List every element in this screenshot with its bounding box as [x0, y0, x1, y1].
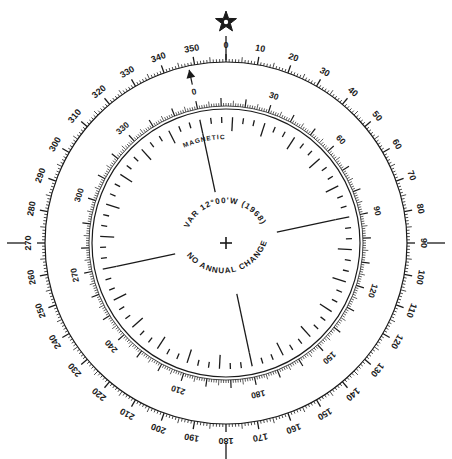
true-ring-tick — [400, 192, 403, 193]
magnetic-inner-tick — [336, 217, 350, 220]
true-ring-tick — [89, 364, 91, 366]
magnetic-ring-tick — [116, 327, 118, 329]
magnetic-ring-tick — [202, 378, 203, 381]
magnetic-inner-tick — [320, 304, 332, 312]
true-ring-tick — [68, 148, 71, 150]
magnetic-ring-tick — [89, 214, 92, 215]
magnetic-ring-tick — [360, 216, 363, 217]
true-ring-tick — [356, 115, 358, 117]
magnetic-ring-tick — [176, 371, 177, 374]
magnetic-ring-tick — [183, 110, 184, 113]
magnetic-ring-tick — [99, 184, 102, 185]
magnetic-ring-tick — [202, 105, 203, 108]
true-ring-tick — [73, 347, 78, 350]
magnetic-ring-tick — [95, 193, 98, 194]
true-ring-tick — [73, 140, 75, 142]
magnetic-ring-tick — [316, 137, 318, 139]
magnetic-ring-tick — [114, 159, 116, 161]
true-ring-tick — [297, 74, 298, 77]
magnetic-ring-tick — [271, 373, 272, 376]
true-ring-tick — [62, 159, 65, 160]
magnetic-ring-tick — [92, 294, 99, 297]
true-ring-tick — [395, 177, 398, 178]
true-ring-tick — [378, 143, 381, 145]
magnetic-inner-tick — [332, 299, 337, 302]
true-ring-tick — [345, 104, 347, 106]
magnetic-inner-tick — [211, 118, 212, 124]
true-ring-tick — [378, 342, 381, 344]
magnetic-ring-tick — [136, 136, 138, 138]
true-ring-tick — [257, 57, 258, 65]
true-ring-tick — [387, 159, 390, 160]
true-ring-tick — [342, 98, 347, 104]
true-ring-tick — [285, 414, 286, 417]
magnetic-ring-tick — [84, 271, 92, 273]
magnetic-inner-tick — [282, 132, 285, 137]
true-ring-tick — [51, 186, 54, 187]
true-ring-tick — [178, 418, 179, 423]
magnetic-ring-tick — [318, 345, 323, 351]
true-ring-label: 230 — [66, 361, 83, 379]
magnetic-ring-tick — [282, 368, 283, 371]
magnetic-ring-tick — [106, 171, 109, 173]
magnetic-ring-tick — [96, 191, 99, 192]
magnetic-ring-tick — [259, 376, 260, 379]
magnetic-ring-tick — [129, 135, 134, 141]
magnetic-ring-tick — [106, 165, 111, 168]
magnetic-ring-tick — [307, 130, 309, 132]
magnetic-ring-tick — [98, 299, 101, 300]
magnetic-ring-tick — [261, 375, 262, 378]
magnetic-ring-tick — [360, 271, 363, 272]
magnetic-ring-tick — [171, 114, 172, 117]
true-ring-label: 10 — [255, 43, 267, 55]
magnetic-ring-tick — [310, 351, 312, 353]
magnetic-ring-tick — [94, 195, 97, 196]
true-ring-tick — [77, 349, 79, 351]
magnetic-inner-tick — [308, 151, 312, 155]
magnetic-ring-tick — [125, 338, 127, 340]
magnetic-ring-tick — [288, 118, 289, 121]
true-ring-tick — [308, 79, 309, 82]
true-ring-tick — [384, 154, 387, 155]
true-ring-tick — [126, 89, 128, 92]
magnetic-ring-tick — [170, 369, 172, 374]
magnetic-inner-tick — [345, 228, 351, 229]
magnetic-inner-tick — [109, 288, 115, 290]
magnetic-inner-tick — [261, 358, 263, 364]
true-ring-tick — [367, 357, 369, 359]
magnetic-ring-tick — [91, 281, 94, 282]
magnetic-ring-tick — [357, 283, 360, 284]
true-ring-tick — [288, 65, 291, 73]
magnetic-ring-tick — [165, 366, 166, 369]
magnetic-ring-tick — [356, 197, 359, 198]
magnetic-ring-tick — [90, 283, 95, 285]
magnetic-ring-tick — [106, 314, 109, 316]
magnetic-ring-tick — [127, 144, 129, 146]
true-ring-label: 170 — [252, 431, 269, 443]
true-ring-tick — [358, 118, 360, 120]
true-ring-tick — [113, 98, 115, 100]
true-ring-tick — [62, 334, 69, 338]
magnetic-ring-tick — [299, 124, 301, 127]
true-ring-tick — [387, 325, 390, 326]
magnetic-inner-tick — [114, 294, 126, 300]
magnetic-ring-tick — [288, 365, 290, 370]
true-ring-tick — [325, 89, 327, 92]
magnetic-ring-tick — [161, 116, 163, 121]
true-ring-tick — [404, 278, 407, 279]
true-ring-tick — [379, 339, 382, 341]
true-ring-tick — [257, 421, 258, 429]
magnetic-ring-tick — [359, 276, 362, 277]
magnetic-ring-tick — [292, 363, 293, 366]
true-ring-tick — [191, 62, 192, 65]
magnetic-inner-tick — [187, 350, 191, 363]
true-ring-tick — [282, 68, 283, 71]
magnetic-ring-tick — [340, 165, 342, 167]
magnetic-ring-tick — [129, 142, 131, 144]
magnetic-ring-tick — [326, 336, 330, 340]
magnetic-ring-tick — [100, 182, 103, 183]
true-ring-tick — [131, 85, 133, 88]
true-ring-tick — [317, 400, 321, 407]
magnetic-ring-tick — [138, 134, 140, 136]
magnetic-ring-tick — [95, 187, 100, 189]
